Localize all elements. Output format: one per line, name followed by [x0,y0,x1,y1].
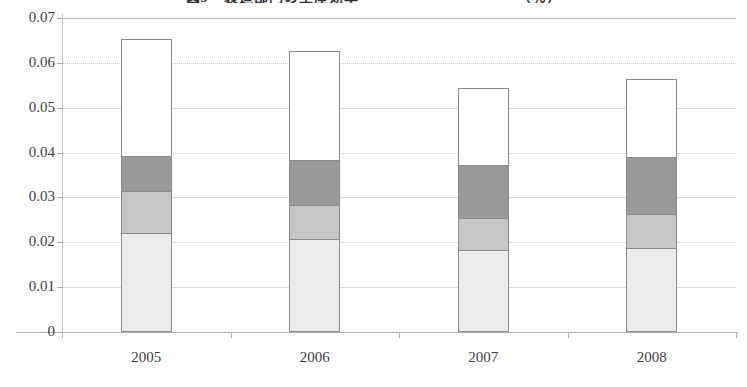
y-tick-label: 0.01 [29,279,55,294]
y-tick-label: 0.07 [29,10,55,25]
bar-segment [626,157,677,215]
x-axis-line [16,332,738,333]
bar-segment [458,218,509,251]
bar-column [289,52,340,332]
bar-column [458,89,509,332]
x-tick-mark [736,332,737,338]
y-tick-label: 0.02 [29,234,55,249]
x-tick-label: 2008 [592,349,712,365]
bar-segment [289,51,340,161]
y-tick-mark [57,108,63,109]
bar-segment [626,79,677,158]
y-tick-mark [57,287,63,288]
y-tick-mark [57,153,63,154]
bar-segment [121,233,172,332]
x-tick-mark [399,332,400,338]
bar-column [626,80,677,332]
y-tick-mark [57,242,63,243]
chart-title: 図3 製造部門の生産効率 （％） [0,0,747,3]
y-tick-label: 0.06 [29,55,55,70]
plot-area [62,18,736,332]
y-tick-mark [57,197,63,198]
bar-segment [121,156,172,192]
y-tick-label: 0.03 [29,189,55,204]
bar-column [121,40,172,332]
bar-segment [626,248,677,332]
x-tick-mark [231,332,232,338]
bar-segment [458,165,509,219]
bar-segment [289,160,340,205]
y-tick-mark [57,18,63,19]
x-tick-label: 2006 [255,349,375,365]
x-tick-mark [568,332,569,338]
plot-top-border [62,18,736,19]
bar-segment [121,191,172,234]
bar-segment [121,39,172,158]
stacked-bar-chart: 図3 製造部門の生産効率 （％） 0.070.060.050.040.030.0… [0,0,747,387]
x-tick-label: 2007 [423,349,543,365]
x-tick-label: 2005 [86,349,206,365]
bar-segment [458,250,509,332]
bar-segment [626,214,677,249]
y-tick-label: 0 [48,324,56,339]
y-tick-mark [57,63,63,64]
bar-segment [458,88,509,165]
y-tick-label: 0.05 [29,100,55,115]
x-tick-mark [62,332,63,338]
y-tick-label: 0.04 [29,145,55,160]
bar-segment [289,205,340,240]
bar-segment [289,239,340,332]
